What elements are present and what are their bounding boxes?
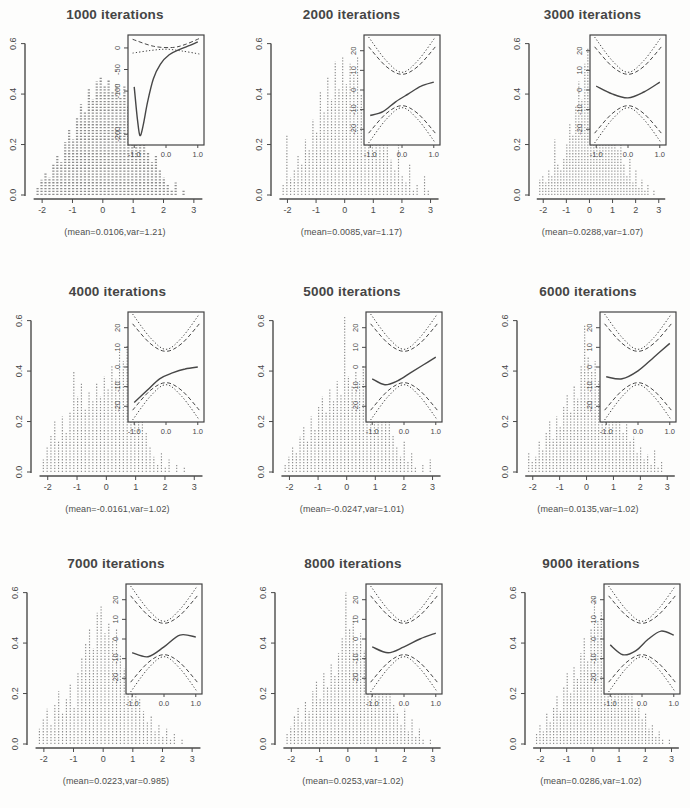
svg-text:0.0: 0.0 bbox=[10, 738, 20, 751]
svg-text:0.0: 0.0 bbox=[256, 466, 266, 479]
svg-text:1.0: 1.0 bbox=[193, 150, 203, 159]
panel-caption: (mean=0.0288,var=1.07) bbox=[460, 227, 690, 240]
svg-text:-2: -2 bbox=[539, 205, 547, 215]
svg-text:-10: -10 bbox=[113, 381, 122, 392]
svg-text:-2: -2 bbox=[285, 482, 293, 492]
svg-text:0.6: 0.6 bbox=[256, 314, 266, 327]
panel-title: 1000 iterations bbox=[0, 5, 230, 25]
svg-text:1: 1 bbox=[133, 482, 138, 492]
svg-text:-20: -20 bbox=[111, 673, 120, 684]
svg-text:2: 2 bbox=[401, 482, 406, 492]
panel-8000-iterations: 8000 iterations 0.00.20.40.6-2-101232010… bbox=[230, 534, 460, 808]
histogram-plot: 0.00.20.40.6-2-1012320100-10-20-1.00.01.… bbox=[0, 574, 230, 778]
svg-text:0.2: 0.2 bbox=[254, 138, 264, 151]
svg-text:20: 20 bbox=[575, 47, 584, 55]
svg-text:0: 0 bbox=[113, 46, 122, 50]
svg-text:0: 0 bbox=[104, 482, 109, 492]
panel-1000-iterations: 1000 iterations 0.00.20.40.6-2-101230-50… bbox=[0, 0, 230, 262]
svg-text:0: 0 bbox=[585, 365, 594, 369]
svg-text:-2: -2 bbox=[44, 482, 52, 492]
svg-text:20: 20 bbox=[111, 596, 120, 604]
svg-text:-1: -1 bbox=[556, 482, 564, 492]
histogram-plot: 0.00.20.40.6-2-1012320100-10-20-1.00.01.… bbox=[230, 302, 460, 506]
svg-text:0.4: 0.4 bbox=[508, 637, 518, 650]
svg-text:-20: -20 bbox=[351, 401, 360, 412]
svg-text:10: 10 bbox=[351, 343, 360, 351]
svg-text:10: 10 bbox=[113, 343, 122, 351]
svg-text:0.0: 0.0 bbox=[397, 150, 407, 159]
svg-text:10: 10 bbox=[111, 615, 120, 623]
svg-text:0.0: 0.0 bbox=[254, 189, 264, 202]
histogram-plot: 0.00.20.40.6-2-1012320100-10-20-1.00.01.… bbox=[230, 574, 460, 778]
svg-text:0: 0 bbox=[345, 754, 350, 764]
svg-text:0.0: 0.0 bbox=[623, 150, 633, 159]
svg-text:20: 20 bbox=[589, 596, 598, 604]
svg-text:3: 3 bbox=[190, 754, 195, 764]
svg-text:0: 0 bbox=[589, 637, 598, 641]
svg-text:0.2: 0.2 bbox=[512, 138, 522, 151]
svg-text:3: 3 bbox=[656, 205, 661, 215]
panel-7000-iterations: 7000 iterations 0.00.20.40.6-2-101232010… bbox=[0, 534, 230, 808]
svg-text:0: 0 bbox=[590, 754, 595, 764]
panel-title: 7000 iterations bbox=[0, 554, 230, 574]
svg-text:0.4: 0.4 bbox=[258, 637, 268, 650]
panel-2000-iterations: 2000 iterations 0.00.20.40.6-2-101232010… bbox=[230, 0, 460, 262]
svg-text:-1: -1 bbox=[312, 205, 320, 215]
panel-title: 6000 iterations bbox=[460, 282, 690, 302]
panel-caption: (mean=-0.0161,var=1.02) bbox=[0, 504, 230, 517]
panel-caption: (mean=0.0286,var=1.02) bbox=[460, 776, 690, 789]
panel-6000-iterations: 6000 iterations 0.00.20.40.6-2-101232010… bbox=[460, 262, 690, 534]
svg-text:10: 10 bbox=[589, 615, 598, 623]
svg-text:1: 1 bbox=[130, 754, 135, 764]
svg-text:0.0: 0.0 bbox=[508, 738, 518, 751]
svg-text:-10: -10 bbox=[575, 104, 584, 115]
svg-text:0.4: 0.4 bbox=[10, 637, 20, 650]
svg-text:0.0: 0.0 bbox=[14, 466, 24, 479]
svg-text:0.0: 0.0 bbox=[633, 427, 643, 436]
svg-text:1.0: 1.0 bbox=[429, 150, 439, 159]
svg-text:0.2: 0.2 bbox=[10, 687, 20, 700]
svg-text:-200: -200 bbox=[113, 127, 122, 142]
svg-text:0.4: 0.4 bbox=[254, 88, 264, 101]
svg-text:1: 1 bbox=[131, 205, 136, 215]
svg-text:1: 1 bbox=[617, 754, 622, 764]
svg-text:1: 1 bbox=[371, 205, 376, 215]
svg-text:-50: -50 bbox=[113, 64, 122, 75]
svg-text:-20: -20 bbox=[575, 124, 584, 135]
svg-text:0.0: 0.0 bbox=[399, 427, 409, 436]
svg-text:-10: -10 bbox=[351, 653, 360, 664]
svg-text:1: 1 bbox=[374, 754, 379, 764]
svg-text:0.6: 0.6 bbox=[254, 37, 264, 50]
svg-text:-1: -1 bbox=[68, 205, 76, 215]
svg-text:0: 0 bbox=[101, 754, 106, 764]
svg-text:3: 3 bbox=[428, 205, 433, 215]
panel-title: 4000 iterations bbox=[0, 282, 230, 302]
svg-text:0.0: 0.0 bbox=[258, 738, 268, 751]
svg-text:-10: -10 bbox=[111, 653, 120, 664]
svg-text:0: 0 bbox=[584, 482, 589, 492]
svg-text:0.6: 0.6 bbox=[14, 314, 24, 327]
svg-text:-1.0: -1.0 bbox=[600, 427, 613, 436]
svg-text:1.0: 1.0 bbox=[193, 427, 203, 436]
svg-text:-1.0: -1.0 bbox=[590, 150, 603, 159]
svg-text:0.6: 0.6 bbox=[508, 586, 518, 599]
svg-text:3: 3 bbox=[430, 754, 435, 764]
panel-caption: (mean=0.0223,var=0.985) bbox=[0, 776, 230, 789]
svg-text:-100: -100 bbox=[113, 84, 122, 99]
svg-text:20: 20 bbox=[349, 47, 358, 55]
svg-text:0.0: 0.0 bbox=[512, 189, 522, 202]
svg-text:-2: -2 bbox=[529, 482, 537, 492]
svg-text:0.2: 0.2 bbox=[500, 415, 510, 428]
panel-caption: (mean=-0.0247,var=1.01) bbox=[230, 504, 460, 517]
svg-text:0.6: 0.6 bbox=[500, 314, 510, 327]
svg-text:-20: -20 bbox=[585, 401, 594, 412]
svg-text:1: 1 bbox=[610, 205, 615, 215]
svg-text:0.4: 0.4 bbox=[500, 365, 510, 378]
svg-text:-1: -1 bbox=[563, 754, 571, 764]
svg-text:-10: -10 bbox=[585, 381, 594, 392]
svg-text:-1: -1 bbox=[70, 754, 78, 764]
svg-text:0.0: 0.0 bbox=[161, 427, 171, 436]
panel-title: 9000 iterations bbox=[460, 554, 690, 574]
panel-title: 8000 iterations bbox=[230, 554, 460, 574]
svg-text:2: 2 bbox=[160, 754, 165, 764]
